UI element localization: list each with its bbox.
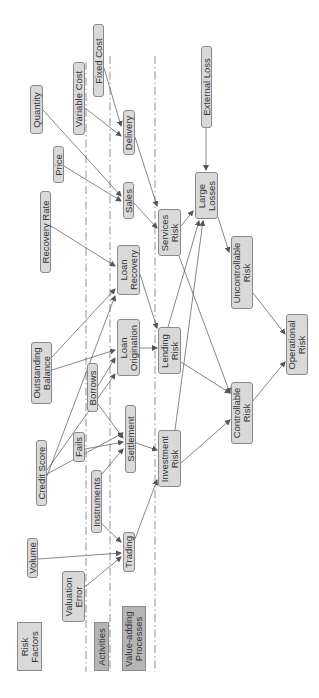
- node-label: Quantity: [32, 92, 42, 127]
- node-variable-cost: Variable Cost: [73, 62, 85, 135]
- node-label: Trading: [124, 536, 134, 568]
- edge-delivery-to-services-risk: [135, 137, 157, 206]
- edge-valuation-error-to-trading: [85, 557, 121, 587]
- node-services-risk: Services Risk: [158, 209, 181, 256]
- node-label: Services Risk: [160, 214, 180, 250]
- edge-services-risk-to-large-losses: [181, 211, 193, 226]
- node-borrows: Borrows: [87, 363, 98, 412]
- node-volume: Volume: [27, 538, 38, 578]
- edge-loan-recovery-to-lending-risk: [140, 274, 157, 328]
- edge-borrows-to-settlement: [98, 404, 123, 438]
- node-large-losses: Large Losses: [195, 172, 218, 219]
- node-label: Fixed Cost: [94, 38, 104, 83]
- edge-settlement-to-investment-risk: [136, 443, 157, 450]
- node-label: Instruments: [92, 477, 102, 527]
- node-instruments: Instruments: [91, 470, 102, 533]
- edge-variable-cost-to-delivery: [85, 108, 121, 136]
- node-label: Loan Origination: [119, 325, 139, 371]
- edge-fixed-cost-to-delivery: [104, 68, 121, 126]
- node-price: Price: [53, 146, 64, 183]
- node-label: Value-adding Processes: [124, 611, 144, 666]
- node-label: Settlement: [126, 416, 136, 461]
- operational-risk-diagram: Fixed CostVariable CostQuantityPriceExte…: [0, 0, 319, 698]
- node-controllable-risk: Controllable Risk: [231, 382, 253, 444]
- node-outstanding-balance: Outstanding Balance: [31, 342, 52, 404]
- node-settlement: Settlement: [125, 405, 136, 473]
- edge-outstanding-balance-to-loan-recovery: [52, 289, 115, 357]
- node-label: External Loss: [202, 58, 212, 116]
- edge-outstanding-balance-to-loan-origination: [52, 350, 115, 370]
- node-label: Sales: [124, 189, 134, 213]
- edge-lending-risk-to-controllable-risk: [181, 362, 230, 393]
- node-loan-recovery: Loan Recovery: [117, 245, 140, 295]
- node-quantity: Quantity: [30, 85, 43, 134]
- node-loan-origination: Loan Origination: [117, 319, 140, 376]
- node-label: Credit Score: [37, 447, 47, 500]
- node-label: Outstanding Balance: [32, 347, 52, 398]
- node-label: Fails: [74, 437, 84, 457]
- node-sales: Sales: [123, 182, 134, 219]
- node-label: Lending Risk: [160, 334, 180, 368]
- edge-services-risk-to-controllable-risk: [179, 256, 230, 393]
- edge-volume-to-trading: [38, 553, 121, 559]
- edge-controllable-risk-to-operational-risk: [253, 362, 285, 401]
- edge-price-to-sales: [64, 166, 121, 201]
- edge-instruments-to-settlement: [102, 449, 123, 474]
- node-recovery-rate: Recovery Rate: [40, 191, 51, 273]
- node-trading: Trading: [123, 532, 135, 572]
- node-label: Controllable Risk: [232, 388, 252, 439]
- node-label: Activities: [97, 628, 107, 665]
- edge-trading-to-investment-risk: [135, 480, 157, 539]
- node-label: Recovery Rate: [41, 201, 51, 264]
- node-label: Borrows: [88, 370, 98, 405]
- edge-large-losses-to-uncontrollable-risk: [218, 217, 229, 252]
- node-label: Investment Risk: [160, 435, 180, 481]
- node-operational-risk: Operational Risk: [286, 314, 308, 375]
- node-label: Large Losses: [197, 180, 217, 210]
- node-delivery: Delivery: [123, 110, 135, 155]
- edge-uncontrollable-risk-to-operational-risk: [253, 293, 285, 334]
- node-fails: Fails: [73, 432, 85, 462]
- node-label: Variable Cost: [74, 70, 84, 126]
- node-valuation-error: Valuation Error: [62, 571, 85, 622]
- edge-borrows-to-loan-origination: [98, 358, 115, 386]
- node-external-loss: External Loss: [201, 46, 212, 128]
- node-legend-value-adding: Value-adding Processes: [122, 606, 146, 671]
- node-label: Valuation Error: [64, 577, 84, 616]
- edge-sales-to-services-risk: [134, 203, 157, 228]
- node-label: Loan Recovery: [119, 250, 139, 290]
- node-label: Volume: [28, 542, 38, 574]
- node-legend-risk-factors: Risk Factors: [17, 622, 42, 671]
- node-label: Delivery: [124, 115, 134, 149]
- node-fixed-cost: Fixed Cost: [93, 24, 104, 97]
- node-legend-activities: Activities: [94, 622, 109, 671]
- edge-investment-risk-to-controllable-risk: [181, 420, 230, 463]
- node-label: Uncontrollable Risk: [232, 242, 252, 303]
- edge-recovery-rate-to-loan-recovery: [51, 226, 115, 266]
- node-credit-score: Credit Score: [36, 440, 47, 506]
- node-label: Operational Risk: [287, 320, 307, 369]
- node-label: Risk Factors: [20, 631, 40, 663]
- node-uncontrollable-risk: Uncontrollable Risk: [231, 236, 253, 309]
- node-lending-risk: Lending Risk: [158, 327, 181, 374]
- node-investment-risk: Investment Risk: [158, 430, 181, 487]
- node-label: Price: [54, 154, 64, 176]
- edge-instruments-to-trading: [102, 524, 121, 542]
